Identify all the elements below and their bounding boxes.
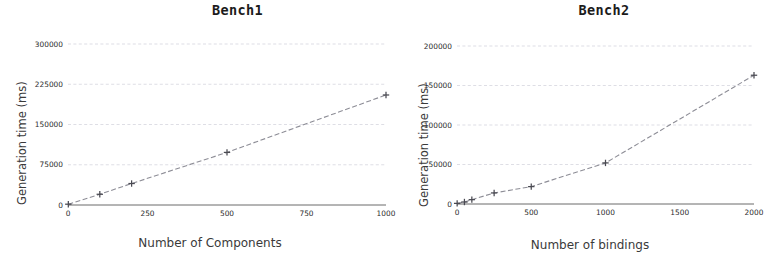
y-axis-label-bench2: Generation time (ms): [417, 83, 431, 207]
y-tick-label-bench2: 0: [447, 200, 452, 209]
data-point-bench2: [454, 200, 460, 206]
x-tick-label-bench1: 0: [66, 209, 71, 218]
chart-title-bench1: Bench1: [0, 2, 435, 18]
data-point-bench2: [491, 190, 497, 196]
y-tick-label-bench1: 300000: [35, 40, 64, 49]
y-tick-label-bench1: 150000: [35, 120, 64, 129]
y-tick-label-bench2: 150000: [424, 81, 453, 90]
x-tick-label-bench2: 500: [524, 208, 538, 217]
chart-panel-bench1: Bench1 Generation time (ms) Number of Co…: [0, 0, 395, 263]
plot-area-bench1: 07500015000022500030000002505007501000: [68, 44, 386, 205]
benchmark-figure: Bench1 Generation time (ms) Number of Co…: [0, 0, 773, 263]
data-point-bench1: [224, 149, 230, 155]
x-axis-label-bench1: Number of Components: [40, 236, 380, 250]
x-tick-label-bench2: 1500: [670, 208, 689, 217]
data-point-bench1: [128, 180, 134, 186]
data-point-bench2: [751, 72, 757, 78]
chart-title-bench2: Bench2: [395, 2, 773, 18]
plot-area-bench2: 0500001000001500002000000500100015002000: [457, 46, 754, 204]
x-tick-label-bench1: 750: [299, 209, 313, 218]
data-point-bench1: [97, 191, 103, 197]
data-point-bench2: [528, 183, 534, 189]
series-line-bench2: [457, 75, 754, 203]
y-tick-label-bench2: 50000: [428, 160, 452, 169]
x-tick-label-bench2: 1000: [596, 208, 615, 217]
x-tick-label-bench1: 250: [140, 209, 154, 218]
y-tick-label-bench1: 75000: [39, 160, 63, 169]
data-point-bench2: [602, 160, 608, 166]
y-tick-label-bench2: 100000: [424, 121, 453, 130]
x-axis-label-bench2: Number of bindings: [425, 238, 755, 252]
x-tick-label-bench2: 0: [455, 208, 460, 217]
x-tick-label-bench2: 2000: [745, 208, 764, 217]
data-point-bench2: [469, 196, 475, 202]
y-tick-label-bench1: 0: [58, 201, 63, 210]
chart-panel-bench2: Bench2 Generation time (ms) Number of bi…: [395, 0, 773, 263]
x-tick-label-bench1: 1000: [377, 209, 396, 218]
data-point-bench1: [65, 201, 71, 207]
data-point-bench1: [383, 92, 389, 98]
y-axis-label-bench1: Generation time (ms): [15, 81, 29, 205]
y-tick-label-bench1: 225000: [35, 80, 64, 89]
y-tick-label-bench2: 200000: [424, 42, 453, 51]
x-tick-label-bench1: 500: [220, 209, 234, 218]
